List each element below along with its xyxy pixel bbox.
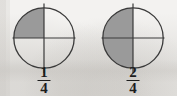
fraction-numerator: 1 [40, 66, 48, 79]
fraction-numerator: 2 [129, 66, 137, 79]
fraction-denominator: 4 [129, 82, 137, 95]
circle-one-quarter-svg [13, 7, 75, 69]
fraction-label-two-quarters: 2 4 [127, 66, 140, 95]
fraction-denominator: 4 [40, 82, 48, 95]
circle-two-quarters [102, 7, 164, 69]
fraction-figure-two-quarters: 2 4 [89, 0, 177, 96]
fraction-label-one-quarter: 1 4 [38, 66, 51, 95]
circle-one-quarter [13, 7, 75, 69]
fraction-figure-one-quarter: 1 4 [0, 0, 88, 96]
fraction-diagram: 1 4 2 4 [0, 0, 177, 96]
circle-two-quarters-svg [102, 7, 164, 69]
